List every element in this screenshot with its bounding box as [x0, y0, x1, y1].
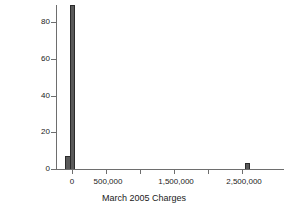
x-tick-2000000 — [208, 170, 209, 174]
bar-outlier — [245, 163, 250, 169]
y-tick-20 — [51, 132, 56, 133]
x-tick-1000000 — [140, 170, 141, 174]
x-tick-label-0: 0 — [70, 177, 74, 186]
y-tick-label-60: 60 — [20, 55, 50, 63]
x-tick-1500000 — [174, 170, 175, 174]
x-tick-label-500000: 500,000 — [94, 177, 123, 186]
bar-main — [70, 5, 75, 169]
x-tick-label-2500000: 2,500,000 — [226, 177, 262, 186]
y-tick-60 — [51, 59, 56, 60]
y-tick-40 — [51, 96, 56, 97]
y-tick-0 — [51, 169, 56, 170]
y-tick-label-20: 20 — [20, 128, 50, 136]
x-tick-500000 — [106, 170, 107, 174]
x-tick-0 — [72, 170, 73, 174]
histogram-chart: Frequency 0 20 40 60 80 0 500,000 1,500,… — [0, 0, 288, 216]
x-axis-line — [56, 169, 284, 170]
y-tick-80 — [51, 22, 56, 23]
y-tick-label-0: 0 — [20, 165, 50, 173]
y-tick-label-80: 80 — [20, 18, 50, 26]
x-axis-title: March 2005 Charges — [0, 193, 288, 204]
x-tick-label-1500000: 1,500,000 — [158, 177, 194, 186]
y-tick-label-40: 40 — [20, 92, 50, 100]
x-tick-2500000 — [242, 170, 243, 174]
y-axis-line — [56, 5, 57, 169]
